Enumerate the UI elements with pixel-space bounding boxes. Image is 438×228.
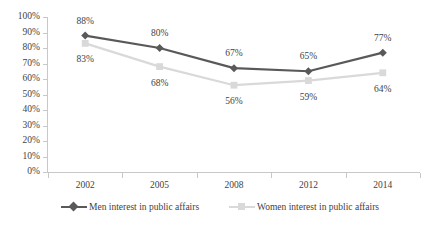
y-axis-tick-mark: [43, 172, 47, 173]
data-point-marker: [230, 64, 238, 72]
x-axis-tick-mark: [197, 173, 198, 178]
data-point-label: 88%: [76, 16, 93, 26]
x-axis-tick-mark: [420, 173, 421, 178]
y-axis-tick-mark: [43, 79, 47, 80]
legend-entry[interactable]: Women interest in public affairs: [229, 199, 379, 215]
legend-label: Women interest in public affairs: [257, 202, 379, 213]
data-point-label: 83%: [76, 54, 93, 64]
y-axis-tick-mark: [43, 157, 47, 158]
x-axis-tick-label: 2008: [225, 180, 244, 191]
line-chart: 0%10%20%30%40%50%60%70%80%90%100% 88%80%…: [0, 0, 438, 228]
x-axis-tick-label: 2002: [76, 180, 95, 191]
legend-diamond-marker-icon: [61, 202, 87, 212]
data-point-label: 64%: [374, 84, 391, 94]
data-point-marker: [304, 67, 312, 75]
y-axis-tick-mark: [43, 48, 47, 49]
y-axis-tick-mark: [43, 126, 47, 127]
x-axis-tick-mark: [122, 173, 123, 178]
data-point-label: 65%: [300, 51, 317, 61]
data-point-label: 59%: [300, 92, 317, 102]
x-axis-tick-mark: [346, 173, 347, 178]
plot-area: [0, 0, 438, 228]
data-point-marker: [156, 44, 164, 52]
data-point-label: 67%: [225, 48, 242, 58]
data-point-marker: [156, 63, 163, 70]
y-axis-tick-mark: [43, 64, 47, 65]
x-axis-tick-mark: [271, 173, 272, 178]
data-point-label: 68%: [151, 78, 168, 88]
y-axis-tick-mark: [43, 95, 47, 96]
legend-label: Men interest in public affairs: [89, 202, 199, 213]
data-point-marker: [82, 40, 89, 47]
legend-entry[interactable]: Men interest in public affairs: [61, 199, 199, 215]
data-point-marker: [305, 77, 312, 84]
x-axis-tick-label: 2005: [150, 180, 169, 191]
data-point-label: 56%: [225, 96, 242, 106]
data-point-marker: [81, 32, 89, 40]
data-point-marker: [231, 82, 238, 89]
y-axis-tick-mark: [43, 141, 47, 142]
data-point-label: 80%: [151, 28, 168, 38]
x-axis-tick-label: 2014: [373, 180, 392, 191]
x-axis-tick-label: 2012: [299, 180, 318, 191]
data-point-marker: [379, 49, 387, 57]
legend-square-marker-icon: [229, 202, 255, 212]
y-axis-tick-mark: [43, 17, 47, 18]
data-point-marker: [379, 69, 386, 76]
y-axis-tick-mark: [43, 110, 47, 111]
x-axis-tick-mark: [48, 173, 49, 178]
chart-legend: Men interest in public affairsWomen inte…: [47, 199, 420, 219]
y-axis-tick-mark: [43, 33, 47, 34]
data-point-label: 77%: [374, 33, 391, 43]
